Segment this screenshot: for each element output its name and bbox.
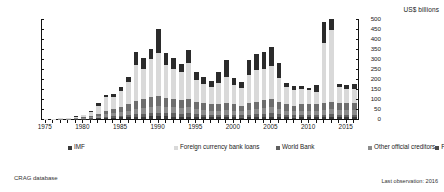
bar-segment [134, 101, 139, 109]
bar-segment [141, 58, 146, 69]
legend-item-imf[interactable]: IMF [68, 143, 174, 152]
bar-segment [126, 117, 131, 119]
bar-2010 [307, 88, 312, 119]
legend-item-foreign-currency-bonds[interactable]: Foreign currency bonds [435, 143, 444, 152]
x-tick [173, 120, 174, 123]
bar-segment [224, 77, 229, 103]
bar-segment [209, 117, 214, 119]
bar-segment [262, 117, 267, 119]
bar-segment [171, 58, 176, 69]
bar-1991 [164, 53, 169, 119]
bar-segment [171, 69, 176, 99]
x-tick [218, 120, 219, 123]
bar-1998 [216, 72, 221, 119]
y-tick-label: 450 [365, 26, 381, 32]
bar-2002 [247, 60, 252, 119]
x-tick-label: 1980 [75, 124, 89, 130]
y-tick [41, 99, 44, 100]
bar-segment [104, 97, 109, 111]
bar-segment [111, 97, 116, 109]
bar-segment [262, 69, 267, 100]
x-tick [331, 120, 332, 123]
bar-1982 [96, 103, 101, 119]
bar-2013 [329, 19, 334, 119]
bar-segment [247, 117, 252, 119]
bar-segment [194, 102, 199, 109]
source-note: CRAG database [14, 175, 58, 181]
bar-2012 [322, 22, 327, 119]
bar-segment [209, 87, 214, 104]
bar-segment [314, 85, 319, 92]
bar-segment [269, 99, 274, 107]
x-tick [323, 120, 324, 123]
y-tick-label: 350 [365, 46, 381, 52]
bar-series-group [42, 19, 358, 119]
y-tick-label: 150 [365, 86, 381, 92]
bar-segment [156, 106, 161, 113]
bar-segment [232, 85, 237, 104]
bar-segment [352, 89, 357, 103]
bar-segment [314, 117, 319, 119]
bar-segment [216, 72, 221, 83]
bar-2011 [314, 85, 319, 119]
bar-2007 [284, 83, 289, 119]
bar-1980 [81, 115, 86, 119]
bar-2001 [239, 82, 244, 119]
bar-segment [247, 103, 252, 110]
bar-segment [134, 52, 139, 65]
bar-segment [179, 64, 184, 72]
x-tick [255, 120, 256, 123]
bar-segment [156, 29, 161, 53]
bar-segment [329, 30, 334, 102]
bar-1987 [134, 52, 139, 119]
bar-segment [179, 100, 184, 108]
bar-segment [224, 103, 229, 110]
bar-segment [337, 87, 342, 103]
legend-item-other-official-creditors[interactable]: Other official creditors [368, 143, 435, 152]
legend-item-foreign-currency-bank-loans[interactable]: Foreign currency bank loans [174, 143, 276, 152]
bar-segment [329, 102, 334, 109]
bar-segment [247, 60, 252, 75]
y-axis-unit-label: US$ billions [403, 6, 439, 13]
bar-segment [247, 75, 252, 103]
x-tick [105, 120, 106, 123]
x-tick-label: 2005 [263, 124, 277, 130]
y-tick [356, 49, 359, 50]
legend-label: Other official creditors [374, 144, 435, 150]
x-tick-label: 2000 [226, 124, 240, 130]
bar-1999 [224, 60, 229, 119]
bar-segment [344, 103, 349, 110]
bar-segment [262, 52, 267, 69]
x-tick [316, 120, 317, 123]
bar-segment [322, 22, 327, 43]
y-tick [356, 39, 359, 40]
bar-1996 [201, 77, 206, 119]
y-tick [41, 89, 44, 90]
x-tick [165, 120, 166, 123]
bar-1990 [156, 29, 161, 119]
bar-segment [254, 70, 259, 102]
bar-segment [344, 89, 349, 103]
bar-segment [216, 117, 221, 119]
bar-segment [277, 63, 282, 78]
x-tick [240, 120, 241, 123]
x-tick [143, 120, 144, 123]
bar-segment [216, 83, 221, 104]
bar-segment [337, 117, 342, 119]
legend-item-world-bank[interactable]: World Bank [276, 143, 368, 152]
bar-segment [194, 72, 199, 80]
bar-segment [186, 117, 191, 119]
bar-1978 [66, 118, 71, 119]
y-tick-label: 400 [365, 36, 381, 42]
x-tick [293, 120, 294, 123]
bar-2009 [299, 86, 304, 119]
bar-segment [194, 117, 199, 119]
bar-segment [111, 118, 116, 119]
bar-segment [314, 92, 319, 104]
bar-segment [239, 88, 244, 106]
bar-segment [277, 102, 282, 109]
legend-swatch-icon [174, 146, 178, 150]
legend-swatch-icon [368, 146, 372, 150]
bar-segment [164, 98, 169, 107]
chart-figure: US$ billions 050100150200250300350400450… [0, 0, 444, 192]
